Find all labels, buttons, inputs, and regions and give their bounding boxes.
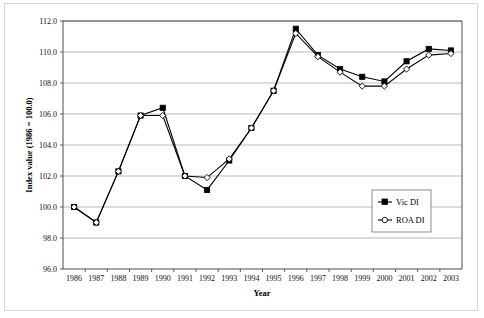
data-point [359, 83, 365, 89]
x-tick-label: 1992 [199, 274, 215, 283]
y-tick-label: 106.0 [39, 110, 57, 119]
y-tick-label: 108.0 [39, 79, 57, 88]
x-tick-label: 2003 [443, 274, 459, 283]
y-tick-label: 102.0 [39, 172, 57, 181]
x-axis-tick-labels: 1986198719881989199019911992199319941995… [66, 274, 459, 283]
x-tick-label: 1999 [354, 274, 370, 283]
y-tick-label: 110.0 [39, 48, 57, 57]
chart-legend[interactable]: Vic DI ROA DI [372, 190, 431, 232]
legend-marker-roa-di [382, 217, 387, 222]
x-tick-label: 1993 [221, 274, 237, 283]
x-tick-label: 1990 [155, 274, 171, 283]
y-tick-label: 104.0 [39, 141, 57, 150]
legend-marker-vic-di [382, 199, 387, 204]
y-axis-title: Index value (1986 = 100.0) [24, 97, 34, 192]
x-axis-title: Year [254, 288, 271, 298]
x-tick-label: 1989 [133, 274, 149, 283]
line-chart: 96.098.0100.0102.0104.0106.0108.0110.011… [0, 0, 484, 318]
x-tick-label: 1995 [266, 274, 282, 283]
x-tick-label: 1988 [110, 274, 126, 283]
y-tick-label: 112.0 [39, 17, 57, 26]
legend-label-vic-di: Vic DI [396, 197, 419, 207]
chart-container: 96.098.0100.0102.0104.0106.0108.0110.011… [0, 0, 484, 318]
data-point [360, 74, 365, 79]
data-point [160, 105, 165, 110]
y-tick-label: 96.0 [43, 265, 57, 274]
x-tick-label: 2002 [421, 274, 437, 283]
x-tick-label: 1986 [66, 274, 82, 283]
legend-label-roa-di: ROA DI [396, 215, 425, 225]
y-tick-label: 100.0 [39, 203, 57, 212]
x-tick-label: 2000 [376, 274, 392, 283]
data-point [426, 46, 431, 51]
x-tick-label: 1994 [243, 274, 259, 283]
x-tick-label: 1996 [288, 274, 304, 283]
x-tick-label: 1991 [177, 274, 193, 283]
data-point [204, 187, 209, 192]
x-tick-label: 1987 [88, 274, 104, 283]
x-tick-label: 1997 [310, 274, 326, 283]
x-tick-label: 2001 [399, 274, 415, 283]
data-point [426, 52, 432, 58]
data-point [404, 59, 409, 64]
x-tick-label: 1998 [332, 274, 348, 283]
y-axis-tick-labels: 96.098.0100.0102.0104.0106.0108.0110.011… [39, 17, 57, 274]
y-tick-label: 98.0 [43, 234, 57, 243]
